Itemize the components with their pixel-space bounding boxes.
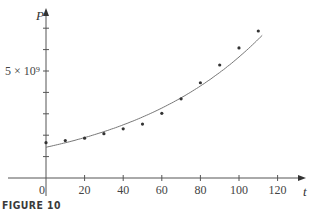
figure-caption: FIGURE 10 xyxy=(2,199,61,212)
x-tick-label: 100 xyxy=(230,183,248,197)
model-curve-path xyxy=(46,35,262,147)
x-tick-label: 60 xyxy=(156,183,168,197)
data-point xyxy=(257,29,260,32)
data-point xyxy=(64,139,67,142)
y-tick-label: 5 × 10⁹ xyxy=(5,64,40,78)
data-point xyxy=(122,127,125,130)
data-point xyxy=(180,97,183,100)
population-chart: 0204060801001205 × 10⁹Pt xyxy=(0,0,315,218)
data-point xyxy=(83,137,86,140)
x-tick-label: 40 xyxy=(117,183,129,197)
x-tick-label: 0 xyxy=(39,183,45,197)
data-point xyxy=(160,112,163,115)
data-point xyxy=(141,122,144,125)
data-point xyxy=(199,81,202,84)
data-point xyxy=(218,63,221,66)
y-axis-label: P xyxy=(35,8,44,23)
x-axis-arrow-icon xyxy=(298,175,306,181)
x-axis-label: t xyxy=(303,184,307,199)
model-curve xyxy=(46,35,262,147)
x-tick-label: 80 xyxy=(194,183,206,197)
data-points xyxy=(44,29,260,144)
axis-labels: 0204060801001205 × 10⁹Pt xyxy=(5,8,307,199)
data-point xyxy=(44,141,47,144)
x-tick-label: 120 xyxy=(269,183,287,197)
data-point xyxy=(237,46,240,49)
x-tick-label: 20 xyxy=(79,183,91,197)
data-point xyxy=(102,132,105,135)
